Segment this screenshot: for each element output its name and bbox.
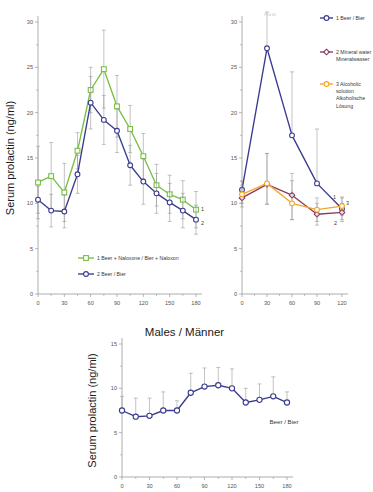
x-tick-label: 120 [337,300,346,306]
beverage-comparison-panel: 0510152025300306090120123P<0.051 Beer / … [212,0,373,318]
y-axis-title: Serum prolactin (ng/ml) [4,101,16,215]
data-point-marker [75,148,80,153]
data-point-marker [284,400,289,405]
data-point-marker [202,384,207,389]
data-point-marker [315,181,320,186]
data-point-marker [133,414,138,419]
series-endpoint-label: 1 [333,194,336,200]
data-point-marker [115,128,120,133]
significance-annotation: P<0.05 [264,13,276,17]
data-point-marker [84,272,89,277]
bottom-chart-svg: 0510150306090120150180Males / MännerSeru… [60,320,373,492]
y-tick-label: 25 [27,64,33,70]
data-point-marker [324,82,329,87]
data-point-marker [340,204,345,209]
y-tick-label: 10 [27,200,33,206]
data-point-marker [240,192,245,197]
data-point-marker [84,256,89,261]
data-point-marker [265,46,270,51]
data-point-marker [243,400,248,405]
x-tick-label: 30 [61,300,67,306]
series-3 [240,153,345,221]
x-tick-label: 0 [36,300,39,306]
data-point-marker [194,217,199,222]
x-tick-label: 150 [255,483,264,489]
data-point-marker [188,390,193,395]
y-tick-label: 15 [231,155,237,161]
legend: 1 Beer + Naloxone / Bier + Naloxon2 Beer… [78,255,179,277]
chart-title: Males / Männer [145,326,224,338]
legend-label: Lösung [336,103,353,109]
y-tick-label: 15 [27,155,33,161]
y-tick-label: 25 [231,64,237,70]
data-point-marker [36,180,41,185]
series-endpoint-label: 2 [201,220,204,226]
y-tick-label: 20 [27,110,33,116]
y-tick-label: 0 [30,291,33,297]
x-tick-label: 120 [139,300,148,306]
data-point-marker [154,191,159,196]
y-tick-label: 30 [27,19,33,25]
data-point-marker [290,133,295,138]
data-point-marker [147,413,152,418]
data-point-marker [128,163,133,168]
y-tick-label: 10 [111,385,117,391]
data-point-marker [290,201,295,206]
y-tick-label: 30 [231,19,237,25]
x-tick-label: 0 [120,483,123,489]
y-tick-label: 5 [114,430,117,436]
series-annotation: Beer / Bier [269,418,298,425]
data-point-marker [115,104,120,109]
y-tick-label: 20 [231,110,237,116]
data-point-marker [271,394,276,399]
x-tick-label: 90 [201,483,207,489]
legend-label: 2 Beer / Bier [97,271,126,277]
y-tick-label: 0 [114,474,117,480]
y-axis-title: Serum prolactin (ng/ml) [86,353,98,467]
x-tick-label: 90 [114,300,120,306]
series-endpoint-label: 1 [201,206,204,212]
data-point-marker [229,386,234,391]
data-point-marker [119,408,124,413]
x-tick-label: 150 [165,300,174,306]
axis-lines [38,16,202,294]
data-point-marker [161,408,166,413]
y-tick-label: 0 [234,291,237,297]
legend-label: 2 Mineral water [336,49,372,55]
x-tick-label: 60 [289,300,295,306]
right-chart-svg: 0510152025300306090120123P<0.051 Beer / … [212,0,373,318]
x-tick-label: 120 [227,483,236,489]
left-chart-svg: 051015202530030609012015018012Serum prol… [0,0,212,318]
y-tick-label: 5 [30,246,33,252]
data-point-marker [101,118,106,123]
data-point-marker [174,408,179,413]
x-tick-label: 0 [240,300,243,306]
legend-label: Alkoholische [336,95,365,101]
series-1 [119,367,289,419]
x-tick-label: 60 [174,483,180,489]
x-tick-label: 30 [146,483,152,489]
y-tick-label: 15 [111,341,117,347]
data-point-marker [141,154,146,159]
data-point-marker [257,397,262,402]
data-point-marker [62,209,67,214]
x-tick-label: 60 [88,300,94,306]
data-point-marker [216,383,221,388]
series-endpoint-label: 3 [346,200,349,206]
data-point-marker [315,207,320,212]
x-tick-label: 180 [282,483,291,489]
data-point-marker [49,208,54,213]
data-point-marker [180,208,185,213]
legend-label: solution [336,88,354,94]
legend: 1 Beer / Bier2 Mineral waterMineralwasse… [320,15,372,109]
x-tick-label: 30 [264,300,270,306]
axis-lines [122,338,293,477]
data-point-marker [141,179,146,184]
data-point-marker [88,100,93,105]
y-tick-label: 10 [231,200,237,206]
data-point-marker [265,181,270,186]
data-point-marker [167,200,172,205]
legend-label: 3 Alcoholic [336,81,361,87]
x-tick-label: 180 [191,300,200,306]
data-point-marker [75,172,80,177]
